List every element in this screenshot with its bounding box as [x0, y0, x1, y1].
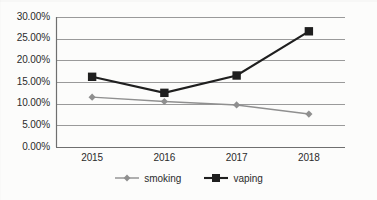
diamond-marker-icon — [233, 101, 240, 108]
y-axis-tick-label: 5.00% — [2, 119, 50, 130]
diamond-marker-icon — [89, 94, 96, 101]
series-line-smoking — [92, 97, 309, 114]
y-axis-tick-label: 15.00% — [2, 76, 50, 87]
x-axis-tick-label: 2017 — [207, 152, 267, 163]
y-axis-tick-label: 25.00% — [2, 32, 50, 43]
gridlines — [56, 18, 345, 148]
square-marker-icon — [160, 89, 168, 97]
square-marker-icon — [88, 73, 96, 81]
diamond-marker-icon — [114, 172, 140, 184]
square-marker-icon — [232, 71, 240, 79]
legend-label: smoking — [144, 173, 181, 184]
plot-area — [0, 0, 377, 200]
x-axis-tick-label: 2015 — [62, 152, 122, 163]
y-axis-tick-label: 0.00% — [2, 141, 50, 152]
square-marker-icon — [203, 172, 229, 184]
y-axis-tick-label: 30.00% — [2, 11, 50, 22]
line-chart-figure: 0.00%5.00%10.00%15.00%20.00%25.00%30.00%… — [0, 0, 377, 200]
y-axis-tick-label: 10.00% — [2, 97, 50, 108]
legend-item-smoking[interactable]: smoking — [114, 172, 181, 184]
diamond-marker-icon — [305, 110, 312, 117]
x-axis-tick-label: 2016 — [134, 152, 194, 163]
y-axis-tick-label: 20.00% — [2, 54, 50, 65]
legend-label: vaping — [233, 173, 262, 184]
x-axis-tick-label: 2018 — [279, 152, 339, 163]
chart-legend: smokingvaping — [0, 172, 377, 184]
square-marker-icon — [305, 27, 313, 35]
legend-item-vaping[interactable]: vaping — [203, 172, 262, 184]
series-line-vaping — [92, 31, 309, 93]
